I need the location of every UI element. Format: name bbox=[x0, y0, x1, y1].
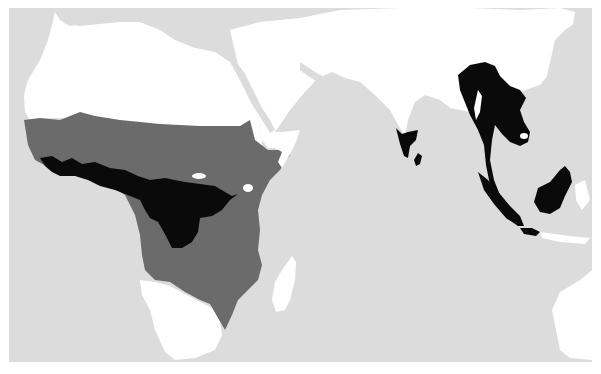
distribution-map bbox=[0, 0, 601, 374]
map-canvas bbox=[0, 0, 601, 374]
